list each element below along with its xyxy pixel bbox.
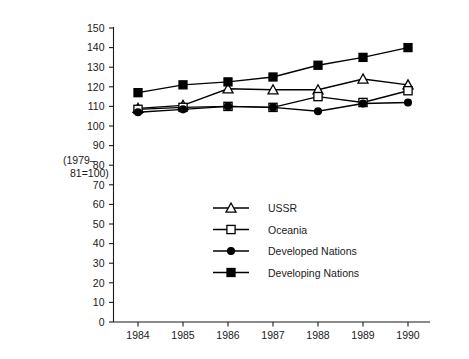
x-axis: 1984198519861987198819891990 (114, 322, 431, 341)
y-tick-label: 140 (87, 41, 105, 53)
legend-label: Oceania (268, 224, 307, 236)
data-point-marker (269, 73, 277, 81)
data-point-marker (270, 104, 277, 111)
legend-marker-open-square-icon (227, 225, 235, 233)
y-tick-label: 50 (93, 218, 105, 230)
legend-marker-filled-square-icon (227, 269, 235, 277)
legend-item-developing-nations[interactable]: Developing Nations (213, 267, 359, 279)
data-point-marker (224, 78, 232, 86)
data-point-marker (315, 108, 322, 115)
data-point-marker (179, 81, 187, 89)
y-tick-label: 20 (93, 277, 105, 289)
y-tick-label: 100 (87, 120, 105, 132)
x-tick-label: 1984 (126, 329, 150, 341)
legend-label: USSR (268, 202, 298, 214)
data-point-marker (360, 100, 367, 107)
data-point-marker (404, 87, 412, 95)
y-tick-label: 30 (93, 257, 105, 269)
chart-container: 0102030405060708090100110120130140150 19… (0, 0, 469, 359)
legend-item-ussr[interactable]: USSR (213, 202, 298, 214)
y-tick-label: 0 (99, 316, 105, 328)
y-tick-label: 150 (87, 22, 105, 34)
y-axis-caption: (1979–81=100) (63, 154, 109, 179)
y-tick-label: 40 (93, 237, 105, 249)
chart-legend: USSROceaniaDeveloped NationsDeveloping N… (213, 202, 359, 279)
legend-item-developed-nations[interactable]: Developed Nations (213, 245, 357, 257)
y-axis-caption-line2: 81=100) (70, 167, 109, 179)
y-axis-caption-line1: (1979– (63, 154, 96, 166)
series-layer (133, 44, 413, 116)
data-point-marker (358, 74, 368, 83)
y-tick-label: 10 (93, 296, 105, 308)
legend-marker-filled-circle-icon (228, 248, 235, 255)
data-point-marker (314, 61, 322, 69)
data-point-marker (180, 106, 187, 113)
y-tick-label: 110 (88, 100, 105, 112)
data-point-marker (134, 89, 142, 97)
x-tick-label: 1988 (306, 329, 330, 341)
line-chart: 0102030405060708090100110120130140150 19… (0, 0, 469, 359)
x-tick-label: 1990 (396, 329, 420, 341)
y-tick-label: 120 (87, 81, 105, 93)
data-point-marker (405, 99, 412, 106)
legend-label: Developed Nations (268, 245, 357, 257)
y-tick-label: 90 (93, 139, 105, 151)
y-tick-label: 60 (93, 198, 105, 210)
x-tick-label: 1989 (351, 329, 375, 341)
legend-label: Developing Nations (268, 267, 359, 279)
x-tick-label: 1987 (261, 329, 285, 341)
data-point-marker (404, 44, 412, 52)
y-tick-label: 70 (93, 179, 105, 191)
x-tick-label: 1985 (171, 329, 195, 341)
data-point-marker (314, 93, 322, 101)
legend-item-oceania[interactable]: Oceania (213, 224, 307, 236)
data-point-marker (225, 103, 232, 110)
data-point-marker (359, 53, 367, 61)
data-point-marker (135, 109, 142, 116)
x-tick-label: 1986 (216, 329, 240, 341)
y-tick-label: 130 (87, 61, 105, 73)
